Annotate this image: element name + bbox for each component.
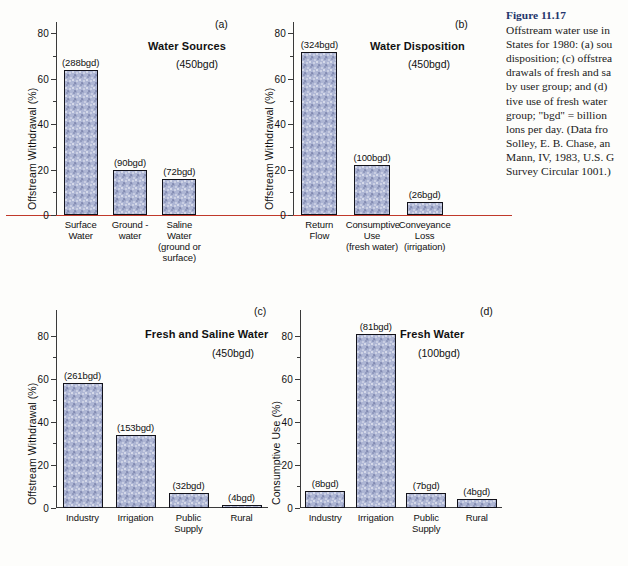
x-category-label: PublicSupply [401, 512, 452, 534]
caption-line: by user group; and (d) [506, 79, 628, 93]
y-tick-major [295, 336, 300, 337]
y-tick-minor [297, 357, 300, 358]
y-tick-label: 80 [281, 330, 293, 341]
panel-title-d: Fresh Water [400, 328, 464, 340]
y-tick-label: 60 [281, 373, 293, 384]
caption-line: States for 1980: (a) sou [506, 37, 628, 51]
y-tick-minor [297, 443, 300, 444]
x-category-line: Rural [452, 512, 503, 523]
bar: (81bgd) [356, 334, 396, 508]
x-category-line: Industry [300, 512, 351, 523]
caption-line: disposition; (c) offstrea [506, 51, 628, 65]
caption-line: Mann, IV, 1983, U.S. G [506, 150, 628, 164]
caption-line: lons per day. (Data fro [506, 122, 628, 136]
figure-caption: Figure 11.17 Offstream water use inState… [506, 8, 628, 188]
bar-value-label: (8bgd) [312, 478, 339, 489]
bar: (4bgd) [457, 499, 497, 508]
panel-subtitle-d: (100bgd) [418, 347, 460, 359]
y-tick-major [295, 508, 300, 509]
y-tick-label: 0 [287, 503, 293, 514]
figure-11-17: Offstream Withdrawal (%)020406080(288bgd… [0, 0, 628, 566]
y-axis-title-d: Consumptive Use (%) [270, 401, 282, 505]
bar: (8bgd) [305, 491, 345, 508]
bar-value-label: (7bgd) [413, 480, 440, 491]
x-category-label: Irrigation [351, 512, 402, 523]
caption-line: tive use of fresh water [506, 94, 628, 108]
bar: (7bgd) [406, 493, 446, 508]
y-tick-label: 40 [281, 416, 293, 427]
bar-value-label: (81bgd) [360, 321, 392, 332]
y-tick-major [295, 379, 300, 380]
x-category-line: Supply [401, 523, 452, 534]
y-tick-label: 20 [281, 459, 293, 470]
caption-line: Solley, E. B. Chase, an [506, 136, 628, 150]
panel-letter-d: (d) [480, 305, 493, 317]
bar-value-label: (4bgd) [463, 486, 490, 497]
x-category-line: Irrigation [351, 512, 402, 523]
x-category-line: Public [401, 512, 452, 523]
y-tick-minor [297, 486, 300, 487]
y-axis-line-d [300, 310, 301, 508]
x-category-label: Industry [300, 512, 351, 523]
caption-line: Offstream water use in [506, 23, 628, 37]
caption-line: Survey Circular 1001.) [506, 164, 628, 178]
y-tick-minor [297, 400, 300, 401]
caption-figure-number: Figure 11.17 [506, 8, 628, 22]
caption-line: group; "bgd" = billion [506, 108, 628, 122]
x-category-label: Rural [452, 512, 503, 523]
y-tick-major [295, 465, 300, 466]
y-tick-major [295, 422, 300, 423]
caption-line: drawals of fresh and sa [506, 65, 628, 79]
